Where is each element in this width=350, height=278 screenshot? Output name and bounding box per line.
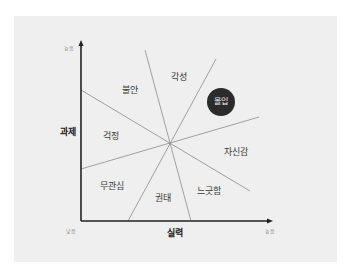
region-boredom-label: 권태 xyxy=(155,194,171,203)
region-arousal-label: 각성 xyxy=(171,73,187,82)
y-axis-arrow-icon xyxy=(79,40,84,46)
flow-diagram: 높음 과제 낮음 실력 높음 각성 불안 몰입 걱정 자신감 무관심 권태 느긋… xyxy=(0,0,350,278)
y-axis-label: 과제 xyxy=(60,128,76,137)
region-anxiety-label: 불안 xyxy=(122,86,138,95)
x-axis-low-label: 낮음 xyxy=(66,229,76,234)
y-axis-high-label: 높음 xyxy=(64,46,74,51)
region-control-label: 자신감 xyxy=(224,148,248,157)
x-axis-arrow-icon xyxy=(267,219,273,224)
region-flow-circle: 몰입 xyxy=(207,88,235,116)
divider-line-diagonal-up xyxy=(128,59,216,221)
divider-line-shallow xyxy=(81,117,259,169)
x-axis-label: 실력 xyxy=(167,229,183,238)
region-worry-label: 걱정 xyxy=(103,132,119,141)
region-relaxation-label: 느긋함 xyxy=(197,187,221,196)
region-apathy-label: 무관심 xyxy=(100,182,124,191)
x-axis-high-label: 높음 xyxy=(265,229,275,234)
region-flow-label: 몰입 xyxy=(214,98,228,106)
